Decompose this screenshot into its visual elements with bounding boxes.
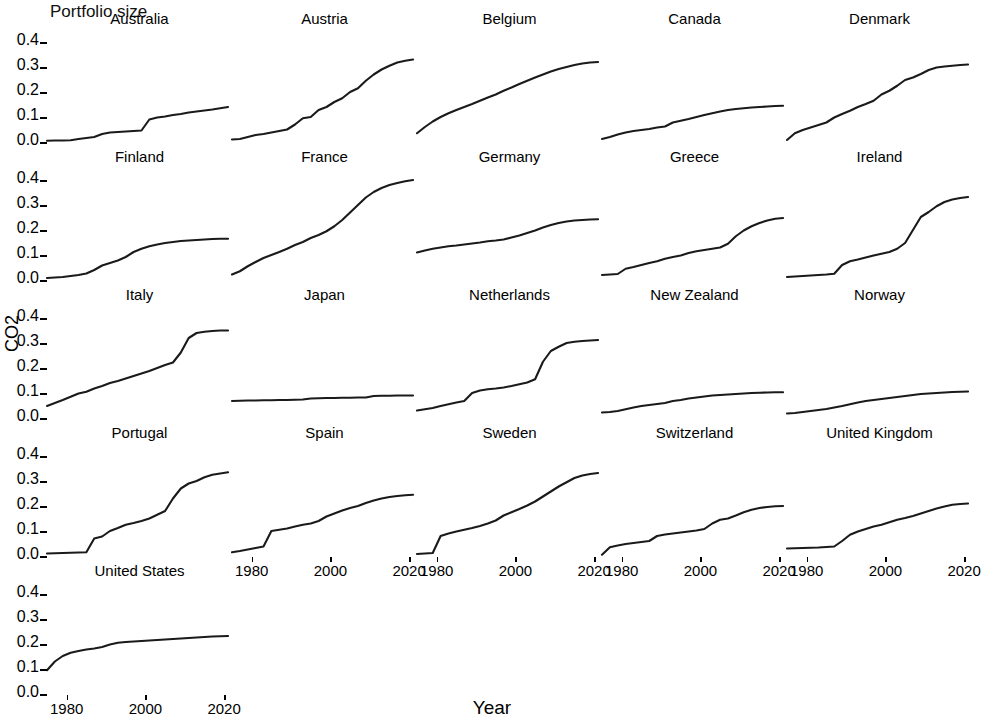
series-line (417, 308, 602, 418)
y-tick-label: 0.2 (3, 219, 39, 237)
y-tick-label: 0.1 (3, 520, 39, 538)
panel-italy: Italy0.00.10.20.30.4 (47, 286, 232, 418)
series-line (602, 446, 787, 556)
panel-title: Austria (232, 10, 417, 27)
panel-title: France (232, 148, 417, 165)
panel-ireland: Ireland (787, 148, 972, 280)
panel-title: Sweden (417, 424, 602, 441)
x-tick-label: 2020 (204, 700, 244, 717)
panel-australia: Australia0.00.10.20.30.4 (47, 10, 232, 142)
panel-netherlands: Netherlands (417, 286, 602, 418)
plot-area (787, 308, 972, 418)
series-line (787, 170, 972, 280)
panel-belgium: Belgium (417, 10, 602, 142)
plot-area (47, 308, 232, 418)
series-line (47, 32, 232, 142)
series-line (47, 308, 232, 418)
y-tick-mark (40, 418, 47, 420)
y-tick-label: 0.2 (3, 357, 39, 375)
panel-title: Spain (232, 424, 417, 441)
series-line (47, 584, 232, 694)
y-tick-mark (40, 318, 47, 320)
y-tick-mark (40, 230, 47, 232)
y-tick-label: 0.1 (3, 106, 39, 124)
panel-france: France (232, 148, 417, 280)
plot-area (417, 170, 602, 280)
y-tick-label: 0.1 (3, 382, 39, 400)
y-tick-label: 0.4 (3, 445, 39, 463)
series-line (417, 32, 602, 142)
x-tick-label: 1980 (232, 562, 272, 579)
panel-title: United States (47, 562, 232, 579)
plot-area (47, 446, 232, 556)
y-tick-mark (40, 556, 47, 558)
y-tick-mark (40, 619, 47, 621)
series-line (602, 32, 787, 142)
panel-title: Norway (787, 286, 972, 303)
y-tick-label: 0.2 (3, 81, 39, 99)
y-tick-mark (40, 506, 47, 508)
y-tick-label: 0.3 (3, 332, 39, 350)
panel-greece: Greece (602, 148, 787, 280)
panel-title: Netherlands (417, 286, 602, 303)
plot-area (417, 446, 602, 556)
y-tick-mark (40, 594, 47, 596)
y-tick-mark (40, 481, 47, 483)
series-line (47, 446, 232, 556)
panel-new-zealand: New Zealand (602, 286, 787, 418)
series-line (417, 170, 602, 280)
y-tick-label: 0.3 (3, 56, 39, 74)
x-tick-label: 2000 (680, 562, 720, 579)
y-tick-label: 0.3 (3, 470, 39, 488)
y-tick-label: 0.4 (3, 583, 39, 601)
series-line (232, 32, 417, 142)
y-tick-label: 0.2 (3, 633, 39, 651)
plot-area (232, 308, 417, 418)
panel-japan: Japan (232, 286, 417, 418)
plot-area (787, 446, 972, 556)
x-tick-label: 1980 (602, 562, 642, 579)
panel-title: Italy (47, 286, 232, 303)
y-tick-label: 0.0 (3, 407, 39, 425)
panel-title: Canada (602, 10, 787, 27)
x-tick-label: 1980 (787, 562, 827, 579)
x-tick-label: 1980 (47, 700, 87, 717)
y-tick-mark (40, 694, 47, 696)
plot-area (602, 32, 787, 142)
panel-germany: Germany (417, 148, 602, 280)
panel-title: Switzerland (602, 424, 787, 441)
series-line (232, 308, 417, 418)
y-tick-mark (40, 393, 47, 395)
y-tick-label: 0.3 (3, 608, 39, 626)
series-line (417, 446, 602, 556)
panel-title: New Zealand (602, 286, 787, 303)
x-tick-label: 2020 (944, 562, 984, 579)
plot-area (417, 32, 602, 142)
y-tick-label: 0.0 (3, 131, 39, 149)
y-tick-mark (40, 343, 47, 345)
y-tick-label: 0.4 (3, 31, 39, 49)
panel-title: Japan (232, 286, 417, 303)
plot-area (417, 308, 602, 418)
plot-area (47, 32, 232, 142)
small-multiples-chart: Portfolio size Year CO2 Australia0.00.10… (0, 0, 984, 728)
y-tick-label: 0.4 (3, 307, 39, 325)
x-tick-label: 2000 (495, 562, 535, 579)
y-tick-mark (40, 644, 47, 646)
plot-area (232, 32, 417, 142)
series-line (787, 32, 972, 142)
plot-area (602, 170, 787, 280)
panel-switzerland: Switzerland198020002020 (602, 424, 787, 556)
y-tick-label: 0.3 (3, 194, 39, 212)
y-tick-label: 0.4 (3, 169, 39, 187)
y-tick-label: 0.0 (3, 545, 39, 563)
y-tick-mark (40, 255, 47, 257)
x-tick-label: 1980 (417, 562, 457, 579)
x-tick-label: 2000 (310, 562, 350, 579)
series-line (602, 308, 787, 418)
y-tick-mark (40, 67, 47, 69)
series-line (232, 170, 417, 280)
y-tick-mark (40, 117, 47, 119)
plot-area (787, 170, 972, 280)
y-tick-mark (40, 142, 47, 144)
